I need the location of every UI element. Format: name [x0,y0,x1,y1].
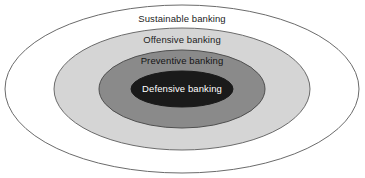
concentric-ellipse-canvas: Sustainable banking Offensive banking Pr… [0,0,365,178]
label-defensive-banking: Defensive banking [142,83,222,94]
label-preventive-banking: Preventive banking [141,55,224,66]
onion-diagram: Sustainable banking Offensive banking Pr… [0,0,365,178]
label-offensive-banking: Offensive banking [143,34,221,45]
label-sustainable-banking: Sustainable banking [138,13,225,24]
